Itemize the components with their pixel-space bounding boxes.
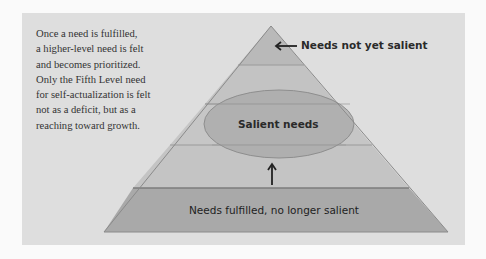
label-needs-fulfilled: Needs fulfilled, no longer salient [189, 204, 359, 216]
label-needs-not-yet-salient: Needs not yet salient [301, 39, 428, 51]
label-salient-needs: Salient needs [238, 118, 319, 130]
